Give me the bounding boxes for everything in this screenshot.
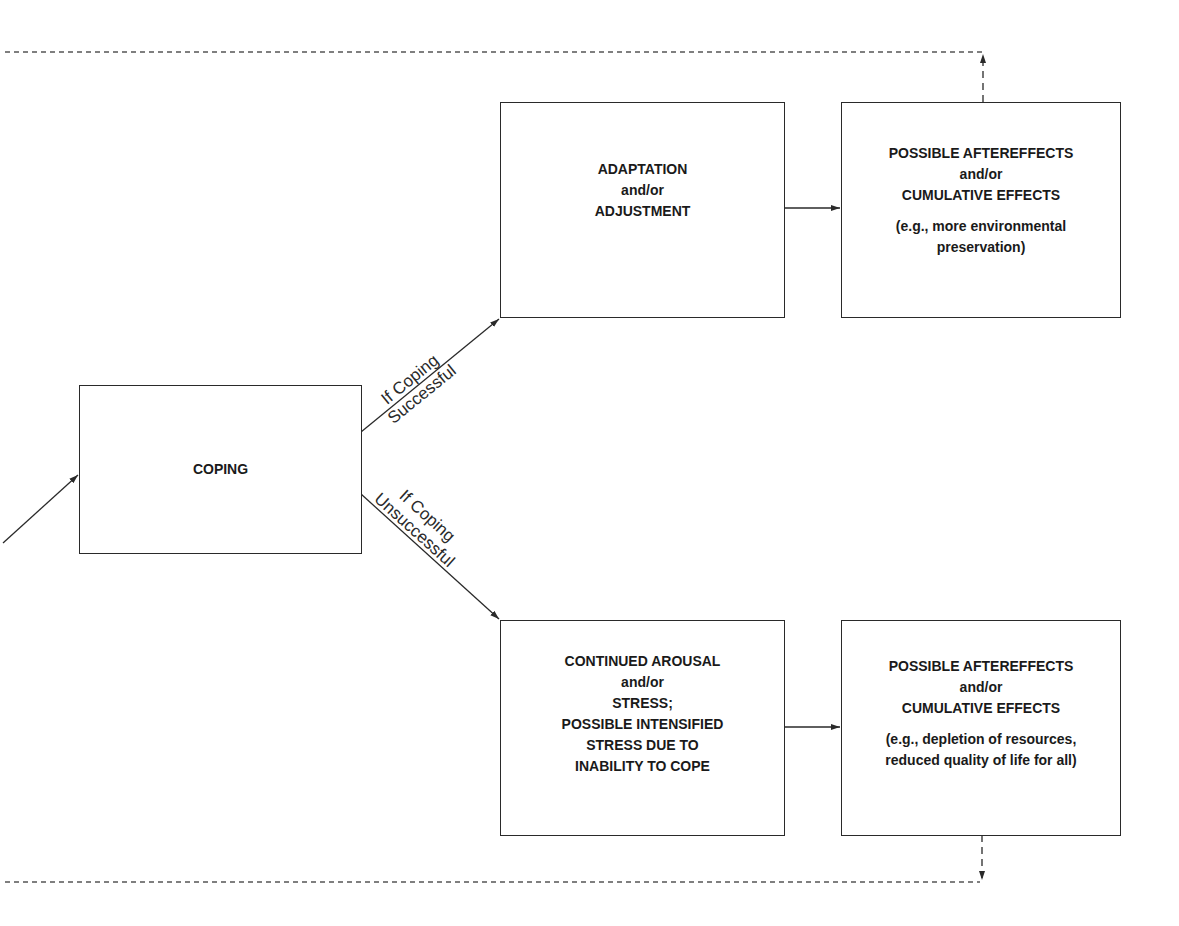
aftereffects-example-line: (e.g., depletion of resources, bbox=[886, 729, 1077, 750]
adaptation-line: ADAPTATION bbox=[598, 159, 688, 180]
arousal-line: CONTINUED AROUSAL bbox=[565, 651, 721, 672]
arousal-line: and/or bbox=[621, 672, 664, 693]
aftereffects-line: and/or bbox=[960, 164, 1003, 185]
incoming-arrow bbox=[3, 475, 78, 543]
arousal-line: STRESS DUE TO bbox=[586, 735, 699, 756]
aftereffects-line: CUMULATIVE EFFECTS bbox=[902, 185, 1060, 206]
aftereffects-line: and/or bbox=[960, 677, 1003, 698]
arousal-line: INABILITY TO COPE bbox=[575, 756, 710, 777]
aftereffects-line: POSSIBLE AFTEREFFECTS bbox=[889, 143, 1074, 164]
adaptation-line: and/or bbox=[621, 180, 664, 201]
continued-arousal-node: CONTINUED AROUSAL and/or STRESS; POSSIBL… bbox=[500, 620, 785, 836]
aftereffects-negative-node: POSSIBLE AFTEREFFECTS and/or CUMULATIVE … bbox=[841, 620, 1121, 836]
aftereffects-positive-node: POSSIBLE AFTEREFFECTS and/or CUMULATIVE … bbox=[841, 102, 1121, 318]
coping-label: COPING bbox=[193, 459, 248, 480]
aftereffects-example-line: (e.g., more environmental bbox=[896, 216, 1066, 237]
adaptation-line: ADJUSTMENT bbox=[595, 201, 691, 222]
aftereffects-line: POSSIBLE AFTEREFFECTS bbox=[889, 656, 1074, 677]
arousal-line: STRESS; bbox=[612, 693, 673, 714]
coping-node: COPING bbox=[79, 385, 362, 554]
aftereffects-line: CUMULATIVE EFFECTS bbox=[902, 698, 1060, 719]
adaptation-node: ADAPTATION and/or ADJUSTMENT bbox=[500, 102, 785, 318]
arousal-line: POSSIBLE INTENSIFIED bbox=[562, 714, 724, 735]
aftereffects-example-line: reduced quality of life for all) bbox=[885, 750, 1076, 771]
aftereffects-example-line: preservation) bbox=[937, 237, 1026, 258]
